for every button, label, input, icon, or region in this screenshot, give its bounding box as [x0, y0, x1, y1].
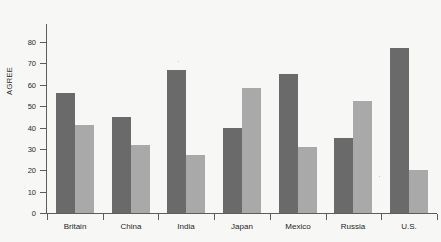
- y-axis-tick-label: 0: [8, 209, 36, 218]
- bar-china-series-2: [131, 145, 150, 213]
- y-axis-tick-label: 80: [8, 38, 36, 47]
- y-axis-tick: [40, 213, 47, 214]
- x-axis-category-label: Mexico: [285, 222, 310, 231]
- y-axis-tick: [40, 42, 47, 43]
- y-axis-tick-label: 10: [8, 187, 36, 196]
- x-axis-category-label: China: [121, 222, 142, 231]
- y-axis-tick: [40, 63, 47, 64]
- y-axis-tick: [40, 106, 47, 107]
- y-axis-tick-label-wrap: 0: [8, 213, 36, 214]
- y-axis-tick-label-wrap: 10: [8, 192, 36, 193]
- x-axis-tick: [326, 214, 327, 220]
- x-axis-tick: [437, 214, 438, 220]
- bar-us-series-2: [409, 170, 428, 213]
- bar-india-series-2: [186, 155, 205, 213]
- y-axis-tick-label: 50: [8, 102, 36, 111]
- x-axis-category-label: Russia: [341, 222, 365, 231]
- y-axis-tick-label-wrap: 70: [8, 63, 36, 64]
- bar-mexico-series-1: [279, 74, 298, 213]
- y-axis-tick-label: 20: [8, 166, 36, 175]
- y-axis-tick: [40, 85, 47, 86]
- x-axis-category-label: U.S.: [401, 222, 417, 231]
- x-axis-tick: [214, 214, 215, 220]
- x-axis-category-label: Japan: [231, 222, 253, 231]
- bar-japan-series-2: [242, 88, 261, 213]
- y-axis-tick: [40, 149, 47, 150]
- y-axis-tick-label: 40: [8, 123, 36, 132]
- bar-britain-series-2: [75, 125, 94, 213]
- y-axis-tick: [40, 128, 47, 129]
- y-axis-tick-label: 60: [8, 80, 36, 89]
- scan-speck: [379, 176, 380, 177]
- x-axis-category-label: India: [177, 222, 194, 231]
- y-axis-tick-label: 70: [8, 59, 36, 68]
- bar-mexico-series-2: [298, 147, 317, 213]
- y-axis-tick-label-wrap: 40: [8, 128, 36, 129]
- bar-us-series-1: [390, 48, 409, 213]
- y-axis-tick-label-wrap: 60: [8, 85, 36, 86]
- x-axis-tick: [381, 214, 382, 220]
- bar-britain-series-1: [56, 93, 75, 213]
- y-axis-tick-label-wrap: 30: [8, 149, 36, 150]
- y-axis-line: [46, 24, 47, 214]
- bar-india-series-1: [167, 70, 186, 213]
- y-axis-tick-label-wrap: 80: [8, 42, 36, 43]
- y-axis-tick-label-wrap: 20: [8, 170, 36, 171]
- x-axis-tick: [158, 214, 159, 220]
- bar-china-series-1: [112, 117, 131, 213]
- bar-russia-series-1: [334, 138, 353, 213]
- y-axis-tick-label: 30: [8, 144, 36, 153]
- x-axis-tick: [47, 214, 48, 220]
- bar-japan-series-1: [223, 128, 242, 214]
- x-axis-line: [46, 213, 437, 214]
- y-axis-tick: [40, 192, 47, 193]
- bar-chart: AGREE 01020304050607080 BritainChinaIndi…: [0, 0, 441, 242]
- y-axis-tick: [40, 170, 47, 171]
- x-axis-tick: [103, 214, 104, 220]
- y-axis-tick-label-wrap: 50: [8, 106, 36, 107]
- x-axis-category-label: Britain: [64, 222, 87, 231]
- x-axis-tick: [270, 214, 271, 220]
- bar-russia-series-2: [353, 101, 372, 213]
- scan-speck: [178, 61, 179, 62]
